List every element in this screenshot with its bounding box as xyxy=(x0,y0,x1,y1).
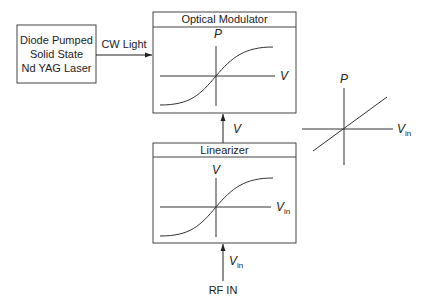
laser-label-line-1: Diode Pumped xyxy=(20,34,93,46)
v-link-label: V xyxy=(233,122,242,136)
lin-y-label: V xyxy=(212,163,221,177)
result-linear-line xyxy=(313,97,387,151)
rf-input-signal-label: Vin xyxy=(229,254,243,270)
om-x-label: V xyxy=(280,69,289,83)
system-diagram: Diode Pumped Solid State Nd YAG Laser CW… xyxy=(0,0,424,298)
cw-light-label: CW Light xyxy=(101,38,146,50)
v-connection: V xyxy=(223,114,242,143)
linear-response-plot: P Vin xyxy=(302,72,411,165)
laser-label-line-2: Solid State xyxy=(30,48,83,60)
laser-label-line-3: Nd YAG Laser xyxy=(22,62,92,74)
rf-in-label: RF IN xyxy=(209,284,238,296)
linearizer-title: Linearizer xyxy=(200,144,249,156)
linearizer-block: Linearizer V Vin xyxy=(153,143,296,243)
optical-modulator-title: Optical Modulator xyxy=(181,13,268,25)
rf-input: Vin RF IN xyxy=(209,244,244,296)
om-y-label: P xyxy=(214,27,222,41)
optical-modulator-block: Optical Modulator P V xyxy=(153,12,296,113)
result-x-label: Vin xyxy=(397,122,411,138)
result-y-label: P xyxy=(340,72,348,86)
laser-block: Diode Pumped Solid State Nd YAG Laser xyxy=(17,25,96,83)
cw-light-connection: CW Light xyxy=(96,38,152,55)
